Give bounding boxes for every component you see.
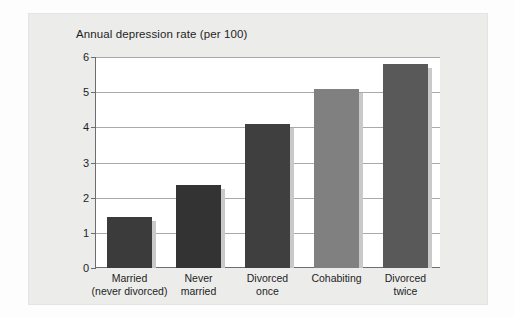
x-label-line: once bbox=[221, 285, 314, 298]
x-label-line: twice bbox=[359, 285, 452, 298]
bar[interactable] bbox=[314, 89, 359, 268]
y-tick-label-4: 4 bbox=[59, 121, 89, 133]
y-tick-label-5: 5 bbox=[59, 86, 89, 98]
y-tick-label-3: 3 bbox=[59, 157, 89, 169]
bar[interactable] bbox=[383, 64, 428, 268]
bar[interactable] bbox=[107, 217, 152, 268]
bar[interactable] bbox=[176, 185, 221, 268]
y-axis-line bbox=[95, 57, 96, 269]
x-axis-category-labels: Married(never divorced)NevermarriedDivor… bbox=[95, 272, 440, 312]
y-axis-tick-labels: 6543210 bbox=[57, 57, 89, 268]
y-tick-label-6: 6 bbox=[59, 51, 89, 63]
bar[interactable] bbox=[245, 124, 290, 268]
plot-area bbox=[95, 57, 440, 268]
gridline-6 bbox=[95, 57, 440, 58]
y-tick-label-1: 1 bbox=[59, 227, 89, 239]
x-label-line: Divorced bbox=[359, 272, 452, 285]
y-tick-label-2: 2 bbox=[59, 192, 89, 204]
x-label: Divorcedtwice bbox=[359, 272, 452, 298]
figure: Annual depression rate (per 100) 6543210… bbox=[0, 0, 514, 317]
chart-title: Annual depression rate (per 100) bbox=[76, 28, 247, 40]
